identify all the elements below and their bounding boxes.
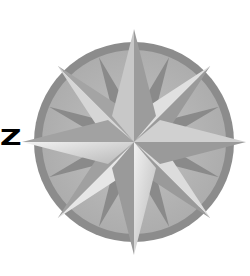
- compass-rose-icon: [0, 0, 250, 276]
- cardinal-points: [22, 29, 246, 255]
